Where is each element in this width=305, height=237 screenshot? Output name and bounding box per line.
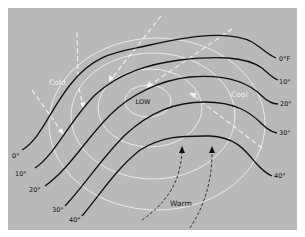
low-pressure-label: LOW <box>136 98 152 106</box>
cool-air-label: Cool <box>231 90 248 99</box>
isotherm-label-right-0: 0°F <box>279 55 290 63</box>
cold-air-label: Cold <box>49 78 66 87</box>
isotherm-label-left-40: 40° <box>69 216 81 224</box>
weather-diagram: LOW Cold Cool Warm 0°F 10° 20° 30° 40° 0… <box>0 0 305 237</box>
isotherm-label-right-20: 20° <box>280 100 292 108</box>
isotherm-label-right-30: 30° <box>279 129 291 137</box>
isotherm-label-left-10: 10° <box>15 170 27 178</box>
map-background <box>8 8 297 230</box>
isotherm-label-left-0: 0° <box>12 152 19 160</box>
warm-air-label: Warm <box>170 199 192 208</box>
isotherm-label-right-10: 10° <box>279 78 291 86</box>
isotherm-label-left-30: 30° <box>52 206 64 214</box>
isotherm-label-left-20: 20° <box>29 186 41 194</box>
isotherm-label-right-40: 40° <box>274 172 286 180</box>
